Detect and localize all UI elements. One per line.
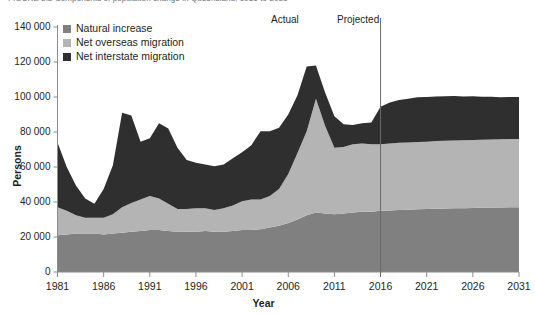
legend-label: Net interstate migration — [76, 51, 185, 62]
legend-swatch-icon — [63, 25, 71, 33]
x-axis-tick-label: 1986 — [84, 280, 124, 292]
x-axis-tick-label: 1996 — [176, 280, 216, 292]
y-axis-tick-label: 20 000 — [3, 231, 51, 242]
y-axis-tick-label: 40 000 — [3, 196, 51, 207]
x-axis-tick-label: 2031 — [499, 280, 535, 292]
x-axis-tick-label: 2006 — [268, 280, 308, 292]
x-axis-tick-label: 2021 — [407, 280, 447, 292]
legend-swatch-icon — [63, 53, 71, 61]
y-axis-tick-label: 60 000 — [3, 161, 51, 172]
x-axis-tick-label: 1981 — [38, 280, 78, 292]
y-axis-tick-label: 120 000 — [3, 56, 51, 67]
legend-label: Net overseas migration — [76, 37, 184, 48]
x-axis-tick-label: 2026 — [453, 280, 493, 292]
legend-item-net-interstate-migration: Net interstate migration — [63, 50, 185, 63]
x-axis-title: Year — [0, 297, 527, 309]
annotation-actual: Actual — [271, 14, 299, 25]
y-axis-tick-label: 80 000 — [3, 126, 51, 137]
x-axis-tick-label: 1991 — [130, 280, 170, 292]
legend-item-natural-increase: Natural increase — [63, 22, 185, 35]
x-axis-tick-label: 2011 — [314, 280, 354, 292]
y-axis-tick-label: 0 — [3, 266, 51, 277]
x-axis-tick-label: 2001 — [222, 280, 262, 292]
annotation-projected: Projected — [337, 14, 379, 25]
legend-item-net-overseas-migration: Net overseas migration — [63, 36, 185, 49]
legend-label: Natural increase — [76, 23, 152, 34]
legend-swatch-icon — [63, 39, 71, 47]
chart-legend: Natural increase Net overseas migration … — [63, 22, 185, 64]
y-axis-tick-label: 100 000 — [3, 91, 51, 102]
x-axis-tick-label: 2016 — [361, 280, 401, 292]
y-axis-tick-label: 140 000 — [3, 21, 51, 32]
